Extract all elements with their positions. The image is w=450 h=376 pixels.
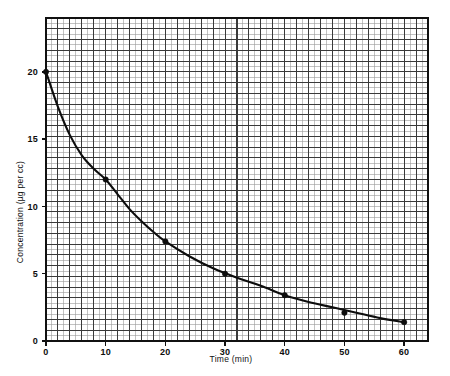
concentration-decay-chart: 0102030405060 05101520 Time (min) Concen…	[0, 0, 450, 376]
y-tick-label: 5	[33, 269, 38, 279]
figure-panel: 0102030405060 05101520 Time (min) Concen…	[0, 0, 450, 376]
data-point-marker	[103, 177, 108, 182]
data-point-marker	[43, 69, 48, 74]
x-axis-title: Time (min)	[210, 354, 253, 364]
y-tick-label: 0	[33, 336, 38, 346]
y-tick-label: 20	[27, 67, 38, 77]
y-tick-label: 15	[27, 134, 38, 144]
x-tick-label: 50	[339, 347, 350, 357]
data-point-marker	[401, 319, 406, 324]
x-tick-label: 60	[399, 347, 410, 357]
x-tick-label: 0	[43, 347, 48, 357]
x-tick-label: 20	[160, 347, 171, 357]
data-point-marker	[222, 271, 227, 276]
y-tick-label: 10	[27, 202, 38, 212]
data-point-marker	[163, 239, 168, 244]
data-point-marker	[342, 310, 347, 315]
x-tick-label: 40	[279, 347, 290, 357]
x-tick-label: 10	[100, 347, 111, 357]
data-point-marker	[282, 293, 287, 298]
y-axis-title: Concentration (µg per cc)	[15, 161, 25, 263]
